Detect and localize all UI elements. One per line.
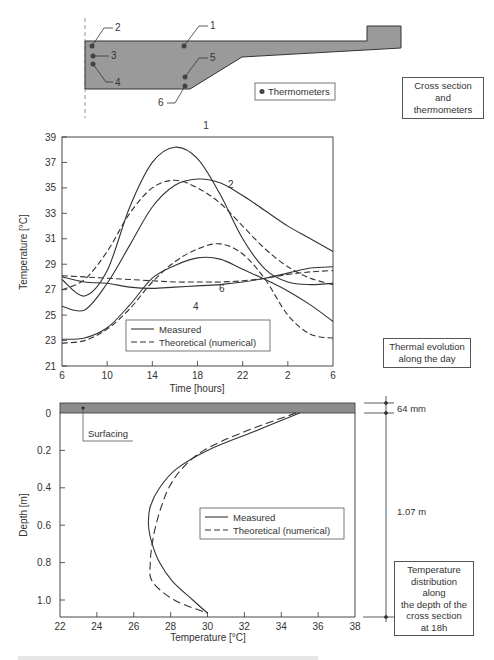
y-tick-label: 1.0: [37, 595, 51, 606]
y-tick-label: 23: [45, 335, 57, 346]
caption-line: thermometers: [407, 104, 479, 116]
caption-line: at 18h: [399, 622, 469, 634]
x-tick-label: 14: [147, 370, 159, 381]
thermometer-label-5: 5: [210, 52, 216, 63]
x-tick-label: 36: [313, 621, 325, 632]
series-line: [62, 180, 333, 289]
x-tick-label: 34: [276, 621, 288, 632]
caption-line: the depth of the: [399, 599, 469, 611]
thermometer-label-3: 3: [111, 50, 117, 61]
y-tick-label: 37: [45, 157, 57, 168]
x-tick-label: 10: [102, 370, 114, 381]
figure-caption-cropped: [18, 656, 318, 660]
curve-label-1: 1: [203, 120, 209, 131]
chart1-y-label: Temperature [°C]: [18, 214, 29, 290]
legend2-theoretical: Theoretical (numerical): [233, 525, 330, 536]
chart2-x-label: Temperature [°C]: [170, 632, 246, 643]
x-tick-label: 38: [349, 621, 361, 632]
caption-line: cross section: [399, 610, 469, 622]
x-tick-label: 6: [59, 370, 65, 381]
chart1-x-axis: 61014182226: [59, 361, 336, 381]
y-tick-label: 25: [45, 310, 57, 321]
x-tick-label: 30: [202, 621, 214, 632]
x-tick-label: 18: [192, 370, 204, 381]
series-line: [62, 179, 333, 311]
thermometer-label-1: 1: [210, 20, 216, 31]
x-tick-label: 32: [239, 621, 251, 632]
surfacing-thickness-label: 64 mm: [397, 403, 426, 414]
cross-section-caption: Cross section and thermometers: [402, 77, 484, 119]
y-tick-label: 33: [45, 208, 57, 219]
x-tick-label: 2: [285, 370, 291, 381]
cross-section-drawing: 2 3 4 1 5 6 Thermometers: [85, 18, 401, 118]
caption-line: distribution along: [399, 576, 469, 599]
series-line: [62, 147, 333, 296]
curve-label-6: 6: [219, 283, 225, 294]
x-tick-label: 28: [165, 621, 177, 632]
y-tick-label: 21: [45, 361, 57, 372]
thermometer-legend-label: Thermometers: [268, 86, 330, 97]
chart2-x-axis: 222426283032343638: [54, 612, 361, 632]
surfacing-label: Surfacing: [88, 428, 128, 439]
legend2-measured: Measured: [233, 512, 275, 523]
y-tick-label: 27: [45, 284, 57, 295]
depth-distribution-chart: Surfacing 00.20.40.60.81.0 2224262830323…: [18, 396, 426, 643]
y-tick-label: 0.4: [37, 482, 51, 493]
thermal-evolution-caption: Thermal evolution along the day: [383, 338, 471, 368]
y-tick-label: 29: [45, 259, 57, 270]
x-tick-label: 22: [54, 621, 66, 632]
curve-label-4: 4: [193, 301, 199, 312]
thermometer-label-2: 2: [115, 22, 121, 33]
legend-theoretical: Theoretical (numerical): [159, 337, 256, 348]
y-tick-label: 0.6: [37, 520, 51, 531]
thermal-evolution-chart: 21232527293133353739 61014182226 1 2 6 4…: [18, 120, 336, 394]
depth-distribution-caption: Temperature distribution along the depth…: [394, 561, 474, 636]
x-tick-label: 22: [237, 370, 249, 381]
caption-line: Temperature: [399, 564, 469, 576]
thermometer-label-6: 6: [158, 97, 164, 108]
chart2-y-axis: 00.20.40.60.81.0: [37, 408, 65, 606]
caption-line: along the day: [388, 353, 466, 365]
thermometer-legend-icon: [260, 89, 265, 94]
curve-label-2: 2: [228, 179, 234, 190]
chart2-legend: Measured Theoretical (numerical): [200, 508, 344, 539]
surfacing-layer: [60, 403, 355, 413]
y-tick-label: 0.2: [37, 445, 51, 456]
legend-measured: Measured: [159, 324, 201, 335]
chart1-x-label: Time [hours]: [169, 383, 224, 394]
chart1-y-axis: 21232527293133353739: [45, 132, 67, 372]
dimension-lines: [363, 396, 394, 622]
caption-line: Cross section and: [407, 80, 479, 104]
caption-line: Thermal evolution: [388, 341, 466, 353]
y-tick-label: 35: [45, 182, 57, 193]
x-tick-label: 6: [330, 370, 336, 381]
y-tick-label: 39: [45, 132, 57, 143]
y-tick-label: 0.8: [37, 557, 51, 568]
chart2-y-label: Depth [m]: [18, 493, 29, 537]
x-tick-label: 24: [91, 621, 103, 632]
x-tick-label: 26: [128, 621, 140, 632]
chart1-legend: Measured Theoretical (numerical): [126, 320, 270, 351]
thermometer-label-4: 4: [115, 77, 121, 88]
y-tick-label: 0: [45, 408, 51, 419]
concrete-section: [85, 26, 401, 89]
slab-depth-label: 1.07 m: [397, 506, 426, 517]
chart1-series: [62, 147, 333, 343]
y-tick-label: 31: [45, 233, 57, 244]
